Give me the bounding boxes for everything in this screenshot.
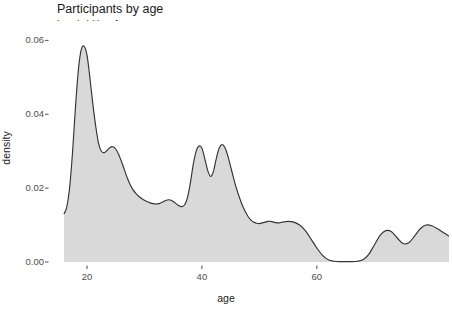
x-tick-label: 40 <box>182 271 222 282</box>
x-tick-label: 60 <box>297 271 337 282</box>
x-axis-title: age <box>0 292 452 304</box>
density-area-chart <box>0 0 452 315</box>
x-tick-label: 20 <box>67 271 107 282</box>
density-plot-figure: Participants by age bandwidth = 1 0.06 0… <box>0 0 452 315</box>
